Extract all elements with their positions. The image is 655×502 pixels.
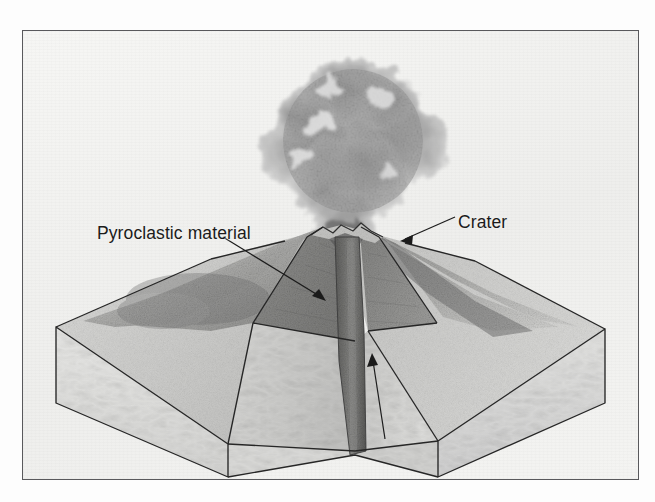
label-central-vent: Central vent filled with rock fragments (329, 449, 483, 480)
label-pyroclastic-material: Pyroclastic material (97, 223, 251, 243)
eruption-ash-plume (259, 59, 445, 255)
figure-frame: Pyroclastic material Crater Central vent… (22, 30, 639, 480)
volcano-illustration: Pyroclastic material Crater Central vent… (23, 31, 638, 479)
figure-root: Pyroclastic material Crater Central vent… (0, 0, 655, 502)
volcano-diagram-svg (23, 31, 638, 479)
label-crater: Crater (458, 212, 507, 232)
